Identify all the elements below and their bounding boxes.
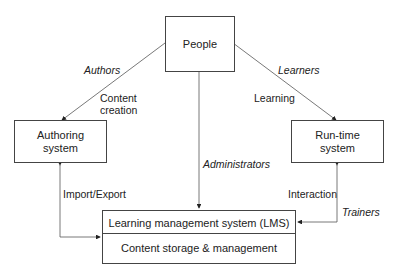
- learners-label: Learners: [278, 64, 319, 76]
- learning-label: Learning: [254, 92, 295, 104]
- content-creation-line1: Content: [100, 92, 137, 104]
- trainers-label: Trainers: [342, 206, 380, 218]
- arrow-authoring-lms: [60, 165, 100, 237]
- authoring-label-line2: system: [43, 142, 78, 155]
- authors-label: Authors: [84, 64, 120, 76]
- people-node: People: [165, 16, 235, 72]
- lms-node: Learning management system (LMS) Content…: [102, 210, 296, 264]
- import-export-label: Import/Export: [63, 188, 126, 200]
- runtime-label-line1: Run-time: [315, 129, 360, 142]
- administrators-label: Administrators: [203, 158, 270, 170]
- lms-title: Learning management system (LMS): [103, 211, 295, 234]
- runtime-system-node: Run-time system: [291, 120, 384, 163]
- authoring-system-node: Authoring system: [14, 120, 107, 163]
- arrow-people-to-runtime: [233, 43, 336, 120]
- runtime-label-line2: system: [320, 142, 355, 155]
- lms-content-storage: Content storage & management: [103, 233, 295, 263]
- people-label: People: [183, 38, 217, 51]
- content-creation-line2: creation: [100, 104, 137, 116]
- interaction-label: Interaction: [288, 188, 337, 200]
- authoring-label-line1: Authoring: [37, 129, 84, 142]
